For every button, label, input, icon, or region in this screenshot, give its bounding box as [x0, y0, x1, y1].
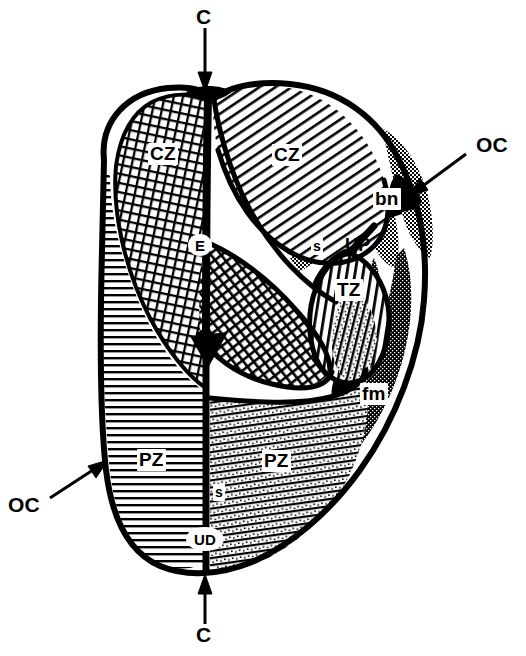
label-proximal-urethra: UP: [345, 236, 370, 254]
label-distal-urethra: UD: [186, 527, 224, 551]
label-oblique-coronal-left: OC: [8, 494, 40, 515]
label-sphincter-upper: s: [311, 238, 323, 255]
label-cz-left: CZ: [148, 143, 178, 165]
figure-canvas: CZ CZ E bn s UP TZ fm PZ PZ s UD C C OC …: [0, 0, 526, 656]
label-oblique-coronal-right: OC: [476, 134, 508, 155]
prostate-zonal-anatomy-illustration: [0, 0, 526, 656]
label-sphincter-lower: s: [213, 484, 225, 501]
label-ejaculatory-duct: E: [188, 234, 212, 256]
label-fibromuscular-stroma: fm: [360, 383, 388, 405]
label-cz-right: CZ: [272, 144, 302, 166]
label-bladder-neck: bn: [373, 188, 401, 210]
label-pz-left: PZ: [137, 449, 166, 471]
label-coronal-bottom: C: [196, 624, 211, 645]
label-coronal-top: C: [196, 6, 211, 27]
label-transition-zone: TZ: [335, 279, 363, 301]
label-pz-right: PZ: [262, 450, 291, 472]
